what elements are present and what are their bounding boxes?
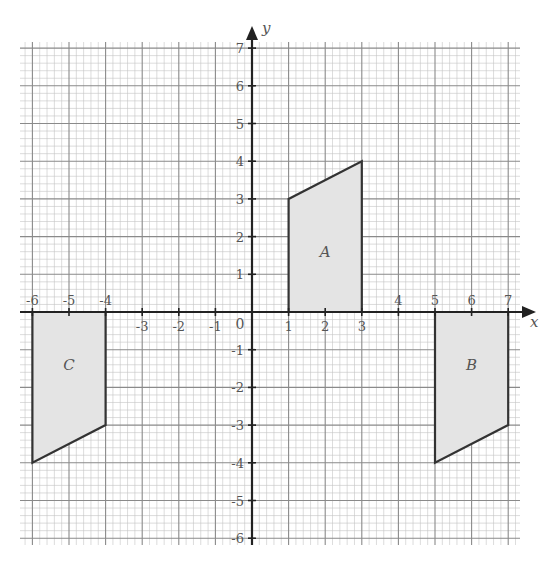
x-tick-label: -4 [99,293,112,308]
x-tick-label: 3 [358,319,366,334]
x-tick-label: -1 [209,319,222,334]
y-tick-label: -3 [231,418,244,433]
y-tick-label: 7 [236,41,244,56]
minor-gridlines [20,42,520,545]
y-tick-label: -5 [231,494,244,509]
coordinate-grid-figure: ABC -6-5-4-3-2-112345677654321-1-2-3-4-5… [0,0,558,568]
x-tick-label: 4 [394,293,402,308]
y-tick-label: 2 [236,230,244,245]
x-tick-label: -3 [136,319,149,334]
y-tick-label: 1 [236,267,244,282]
x-tick-label: 6 [467,293,475,308]
y-tick-label: 3 [236,192,244,207]
x-tick-label: 5 [431,293,439,308]
y-tick-label: -4 [231,456,244,471]
y-tick-label: -2 [231,380,244,395]
x-tick-label: -5 [63,293,76,308]
x-tick-label: 7 [504,293,512,308]
shape-b-label: B [465,356,477,374]
y-tick-label: -6 [231,531,244,546]
y-tick-label: 6 [236,79,244,94]
y-axis-label: y [261,19,271,37]
x-tick-label: -2 [172,319,185,334]
y-tick-label: 4 [236,154,244,169]
y-tick-label: -1 [231,343,244,358]
coordinate-plane: ABC -6-5-4-3-2-112345677654321-1-2-3-4-5… [0,0,558,568]
shape-c-label: C [63,356,75,374]
x-tick-label: -6 [26,293,39,308]
axes [20,26,536,545]
origin-label: 0 [236,316,245,332]
x-tick-label: 1 [284,319,292,334]
x-tick-label: 2 [321,319,329,334]
shape-a-label: A [318,243,331,261]
y-axis-arrow-icon [246,26,258,40]
y-tick-label: 5 [236,117,244,132]
x-axis-label: x [530,313,539,331]
major-gridlines [20,42,520,545]
